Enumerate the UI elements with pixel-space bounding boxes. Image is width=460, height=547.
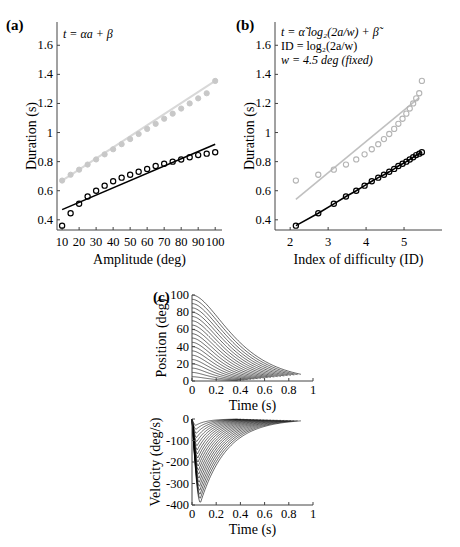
x-tick-label: 30	[90, 235, 103, 249]
panel-b-label: (b)	[236, 17, 254, 34]
y-tick-label: -400	[166, 498, 189, 512]
data-point-gray	[343, 162, 348, 167]
data-point-gray	[111, 147, 116, 152]
x-tick-label: 1	[310, 383, 316, 397]
y-axis-label: Position (deg)	[154, 298, 170, 377]
data-point-gray	[136, 131, 141, 136]
y-tick-label: 1.2	[255, 96, 271, 110]
data-point-gray	[316, 172, 321, 177]
x-tick-label: 70	[158, 235, 171, 249]
data-point-gray	[204, 91, 209, 96]
data-point-black	[119, 175, 124, 180]
y-tick-label: 1.6	[37, 38, 53, 52]
x-axis-label: Index of difficulty (ID)	[294, 252, 424, 268]
velocity-traces	[192, 419, 301, 502]
x-tick-label: 0.8	[281, 507, 297, 521]
x-tick-label: 0	[189, 507, 195, 521]
x-tick-label: 20	[73, 235, 86, 249]
data-point-gray	[60, 178, 65, 183]
y-tick-label: 20	[177, 357, 190, 371]
data-point-gray	[354, 157, 359, 162]
y-tick-label: 100	[170, 288, 189, 302]
data-point-gray	[362, 152, 367, 157]
y-axis-label: Duration (s)	[242, 102, 258, 170]
y-tick-label: 80	[177, 305, 190, 319]
x-axis-label: Time (s)	[229, 522, 277, 538]
data-point-gray	[196, 96, 201, 101]
y-tick-label: 1.4	[255, 67, 271, 81]
x-tick-label: 1	[310, 507, 316, 521]
data-point-gray	[387, 131, 392, 136]
data-point-gray	[396, 121, 401, 126]
data-point-gray	[128, 136, 133, 141]
data-point-gray	[102, 152, 107, 157]
x-tick-label: 0.2	[208, 383, 224, 397]
x-tick-label: 10	[56, 235, 69, 249]
data-point-black	[213, 150, 218, 155]
data-point-gray	[293, 178, 298, 183]
data-point-gray	[119, 142, 124, 147]
data-point-gray	[145, 126, 150, 131]
data-point-gray	[419, 78, 424, 83]
y-tick-label: 0.8	[255, 155, 271, 169]
x-tick-label: 100	[206, 235, 225, 249]
data-point-gray	[170, 111, 175, 116]
data-point-gray	[85, 162, 90, 167]
data-point-gray	[77, 167, 82, 172]
data-point-black	[111, 179, 116, 184]
y-tick-label: 0.6	[37, 184, 53, 198]
data-point-gray	[187, 101, 192, 106]
x-tick-label: 5	[401, 235, 407, 249]
y-axis-label: Velocity (deg/s)	[148, 417, 164, 506]
y-tick-label: 0.4	[255, 213, 271, 227]
y-tick-label: 60	[177, 322, 190, 336]
x-tick-label: 3	[325, 235, 331, 249]
position-traces	[192, 295, 301, 381]
data-point-gray	[162, 116, 167, 121]
x-axis-label: Time (s)	[229, 398, 277, 414]
data-point-gray	[369, 147, 374, 152]
data-point-black	[136, 169, 141, 174]
data-point-black	[204, 151, 209, 156]
panel-a-label: (a)	[6, 17, 24, 34]
data-point-gray	[400, 116, 405, 121]
x-tick-label: 60	[141, 235, 154, 249]
data-point-gray	[376, 142, 381, 147]
data-point-gray	[407, 106, 412, 111]
y-tick-label: 0.6	[255, 184, 271, 198]
data-point-gray	[404, 111, 409, 116]
equation-annotation-1: t = α̃ log₂(2a/w) + β̃	[281, 25, 384, 39]
data-point-black	[196, 152, 201, 157]
data-point-gray	[153, 121, 158, 126]
y-tick-label: 1.2	[37, 96, 53, 110]
data-point-gray	[381, 136, 386, 141]
x-tick-label: 80	[175, 235, 188, 249]
equation-annotation-2: ID = log₂(2a/w)	[281, 39, 357, 53]
x-tick-label: 0.4	[233, 507, 249, 521]
figure: (a)0.40.60.811.21.41.6102030405060708090…	[0, 0, 460, 547]
data-point-gray	[179, 106, 184, 111]
x-tick-label: 40	[107, 235, 120, 249]
x-tick-label: 0.4	[233, 383, 249, 397]
data-point-gray	[68, 172, 73, 177]
data-point-gray	[94, 157, 99, 162]
data-point-black	[153, 163, 158, 168]
data-point-gray	[392, 126, 397, 131]
y-tick-label: 1	[47, 126, 53, 140]
data-point-black	[68, 211, 73, 216]
x-tick-label: 0.8	[281, 383, 297, 397]
y-axis-label: Duration (s)	[24, 102, 40, 170]
y-tick-label: 0.8	[37, 155, 53, 169]
data-point-gray	[213, 78, 218, 83]
y-tick-label: 0.4	[37, 213, 53, 227]
data-point-black	[94, 188, 99, 193]
y-tick-label: -300	[166, 477, 189, 491]
y-tick-label: -100	[166, 434, 189, 448]
x-tick-label: 90	[192, 235, 205, 249]
x-tick-label: 0.2	[208, 507, 224, 521]
data-point-black	[128, 172, 133, 177]
y-tick-label: 1.6	[255, 38, 271, 52]
equation-annotation-3: w = 4.5 deg (fixed)	[281, 53, 373, 67]
y-tick-label: 1.4	[37, 67, 53, 81]
x-tick-label: 4	[363, 235, 370, 249]
